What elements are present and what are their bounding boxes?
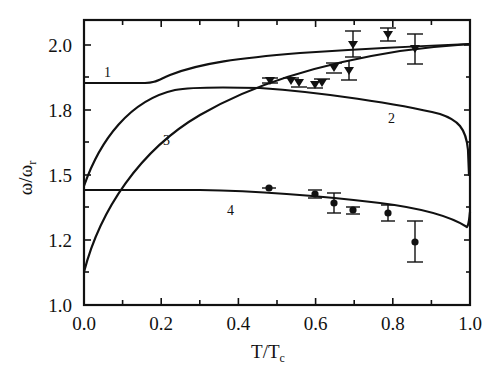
y-ticks — [84, 45, 470, 272]
data-point-circle — [262, 184, 276, 191]
data-point-triangle — [341, 60, 357, 80]
data-point-triangle — [380, 28, 396, 41]
y-tick-label: 1.0 — [48, 295, 72, 316]
data-point-circle — [346, 206, 360, 214]
x-tick-label: 0.6 — [304, 313, 328, 334]
curve-4-label: 4 — [227, 203, 234, 218]
data-point-triangle — [345, 31, 361, 57]
data-point-circle — [381, 205, 395, 221]
x-tick-labels: 0.0 0.2 0.4 0.6 0.8 1.0 — [72, 313, 482, 334]
x-tick-label: 0.0 — [72, 313, 96, 334]
x-axis-title: T/Tc — [251, 341, 285, 365]
x-tick-label: 1.0 — [458, 313, 482, 334]
curve-2 — [84, 87, 469, 186]
x-tick-label: 0.8 — [381, 313, 405, 334]
curve-3-label: 3 — [163, 133, 170, 148]
x-ticks — [123, 20, 432, 305]
y-tick-label: 1.5 — [48, 165, 72, 186]
data-point-circle — [327, 193, 341, 213]
x-tick-label: 0.4 — [227, 313, 251, 334]
curve-1-label: 1 — [104, 65, 111, 80]
circle-data-series — [262, 184, 423, 262]
triangle-data-series — [262, 28, 423, 89]
curve-2-label: 2 — [388, 111, 395, 126]
y-tick-label: 1.2 — [48, 230, 72, 251]
y-tick-labels: 2.0 1.8 1.5 1.2 1.0 — [48, 35, 72, 316]
chart: 2.0 1.8 1.5 1.2 1.0 0.0 0.2 0.4 0.6 0.8 … — [0, 0, 496, 375]
data-point-circle — [407, 221, 423, 262]
y-tick-label: 2.0 — [48, 35, 72, 56]
y-axis-title: ω/ωr — [15, 161, 39, 195]
x-tick-label: 0.2 — [149, 313, 173, 334]
y-tick-label: 1.8 — [48, 100, 72, 121]
